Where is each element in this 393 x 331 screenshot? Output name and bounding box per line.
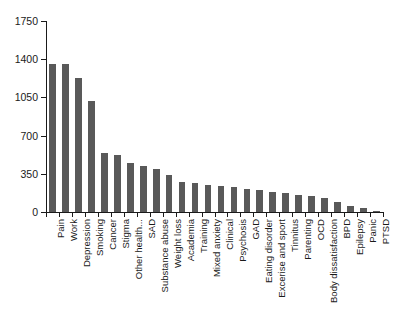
x-axis-tick xyxy=(137,212,138,217)
x-axis-tick xyxy=(189,212,190,217)
plot-area xyxy=(46,21,383,212)
x-axis-tick xyxy=(176,212,177,217)
bar xyxy=(347,206,354,212)
x-axis-category-label: Training xyxy=(199,219,209,253)
x-axis-tick xyxy=(124,212,125,217)
x-axis-category-label: Depression xyxy=(82,219,92,267)
x-axis-tick xyxy=(383,212,384,217)
bar xyxy=(127,163,134,212)
bar xyxy=(114,155,121,212)
bar xyxy=(62,64,69,212)
bar xyxy=(244,189,251,212)
x-axis-category-label: Clinical xyxy=(225,219,235,250)
bar xyxy=(88,101,95,212)
y-axis-tick-label: 1050 xyxy=(0,92,38,103)
x-axis-tick xyxy=(227,212,228,217)
x-axis-category-label: Stigma xyxy=(121,219,131,249)
x-axis-category-label: SAD xyxy=(147,219,157,239)
bar xyxy=(49,64,56,212)
bar xyxy=(282,193,289,212)
x-axis-tick xyxy=(215,212,216,217)
y-axis-tick-label: 1400 xyxy=(0,54,38,65)
bar xyxy=(295,195,302,212)
x-axis-category-label: GAD xyxy=(251,219,261,240)
bar xyxy=(334,202,341,212)
x-axis-category-label: Mixed anxiety xyxy=(212,219,222,277)
x-axis-tick xyxy=(98,212,99,217)
x-axis-tick xyxy=(279,212,280,217)
x-axis-tick xyxy=(72,212,73,217)
x-axis-category-label: Work xyxy=(69,219,79,241)
bar xyxy=(256,190,263,212)
x-axis-category-label: Academia xyxy=(186,219,196,261)
bar xyxy=(205,185,212,212)
x-axis-category-label: Other health... xyxy=(134,219,144,279)
bar xyxy=(231,187,238,212)
x-axis-tick xyxy=(59,212,60,217)
x-axis-tick xyxy=(357,212,358,217)
bar xyxy=(179,182,186,212)
x-axis-tick xyxy=(46,212,47,217)
x-axis-category-label: PTSD xyxy=(381,219,391,244)
x-axis-category-label: Panic xyxy=(368,219,378,243)
y-axis-tick-label: 700 xyxy=(0,131,38,142)
bar xyxy=(218,186,225,212)
bar xyxy=(269,192,276,212)
x-axis-tick xyxy=(202,212,203,217)
x-axis-category-label: Body dissatisfaction xyxy=(329,219,339,303)
x-axis-tick xyxy=(305,212,306,217)
x-axis-tick xyxy=(266,212,267,217)
x-axis-category-label: Tinnitus xyxy=(290,219,300,252)
bar xyxy=(360,208,367,212)
y-axis-tick-label: 1750 xyxy=(0,16,38,27)
bar xyxy=(321,198,328,212)
x-axis-tick xyxy=(331,212,332,217)
x-axis-category-label: BPD xyxy=(342,219,352,239)
x-axis-category-label: Parenting xyxy=(303,219,313,260)
y-axis-tick-label: 0 xyxy=(0,207,38,218)
bar xyxy=(166,175,173,212)
x-axis-category-label: Smoking xyxy=(95,219,105,256)
x-axis-category-label: Psychosis xyxy=(238,219,248,262)
x-axis-tick xyxy=(370,212,371,217)
x-axis-category-label: Epilepsy xyxy=(355,219,365,255)
x-axis-tick xyxy=(163,212,164,217)
x-axis-tick xyxy=(318,212,319,217)
bar xyxy=(308,196,315,212)
bar-chart: 1750140010507003500 PainWorkDepressionSm… xyxy=(0,0,393,331)
x-axis-tick xyxy=(253,212,254,217)
x-axis-tick xyxy=(150,212,151,217)
x-axis-category-label: Excerise and sport xyxy=(277,219,287,298)
x-axis-tick xyxy=(85,212,86,217)
bar xyxy=(75,78,82,212)
x-axis-category-label: Pain xyxy=(56,219,66,238)
x-axis-category-label: Eating disorder xyxy=(264,219,274,283)
x-axis-tick xyxy=(240,212,241,217)
x-axis-category-label: Weight loss xyxy=(173,219,183,268)
x-axis-category-label: Substance abuse xyxy=(160,219,170,292)
bar xyxy=(192,183,199,212)
bar xyxy=(140,166,147,212)
bar xyxy=(153,169,160,212)
x-axis-tick xyxy=(344,212,345,217)
x-axis-tick xyxy=(111,212,112,217)
x-axis-category-label: Cancer xyxy=(108,219,118,250)
x-axis-tick xyxy=(292,212,293,217)
y-axis-tick-label: 350 xyxy=(0,169,38,180)
bar xyxy=(101,153,108,212)
bar xyxy=(373,211,380,212)
x-axis-category-label: OCD xyxy=(316,219,326,240)
